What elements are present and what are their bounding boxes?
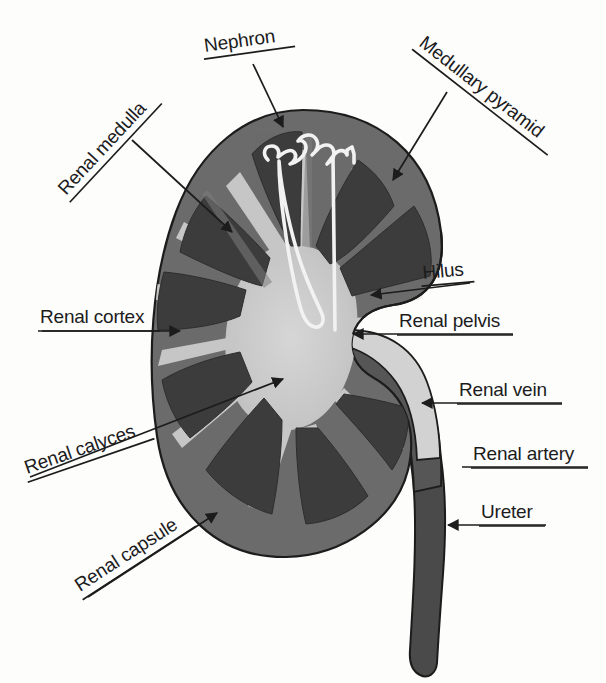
label-renal-cortex-text: Renal cortex xyxy=(40,306,145,327)
label-renal-capsule[interactable]: Renal capsule xyxy=(69,505,196,599)
label-renal-artery-text: Renal artery xyxy=(473,443,575,464)
label-renal-artery[interactable]: Renal artery xyxy=(471,443,588,468)
label-renal-vein-text: Renal vein xyxy=(459,379,547,400)
leader-medullary-pyramid xyxy=(393,92,447,180)
label-renal-medulla[interactable]: Renal medulla xyxy=(52,87,162,202)
label-renal-calyces-text: Renal calyces xyxy=(21,420,137,478)
label-nephron[interactable]: Nephron xyxy=(201,23,295,60)
label-renal-vein[interactable]: Renal vein xyxy=(457,379,562,404)
label-ureter[interactable]: Ureter xyxy=(479,501,545,526)
label-renal-capsule-text: Renal capsule xyxy=(71,514,181,596)
label-renal-cortex[interactable]: Renal cortex xyxy=(38,306,160,331)
label-medullary-pyramid[interactable]: Medullary pyramid xyxy=(412,30,562,155)
label-renal-pelvis-text: Renal pelvis xyxy=(399,310,500,331)
label-medullary-pyramid-underline xyxy=(412,49,548,155)
label-medullary-pyramid-text: Medullary pyramid xyxy=(416,32,549,142)
kidney-anatomy-illustration: Studies with Cells s Cells xyxy=(0,0,606,683)
kidney-diagram: Studies with Cells s Cells xyxy=(0,0,606,683)
label-renal-pelvis[interactable]: Renal pelvis xyxy=(397,310,513,335)
label-renal-medulla-text: Renal medulla xyxy=(54,97,151,199)
label-hilus[interactable]: Hilus xyxy=(420,258,475,287)
label-ureter-text: Ureter xyxy=(481,501,533,522)
label-renal-calyces[interactable]: Renal calyces xyxy=(20,415,155,482)
label-hilus-text: Hilus xyxy=(422,258,465,283)
